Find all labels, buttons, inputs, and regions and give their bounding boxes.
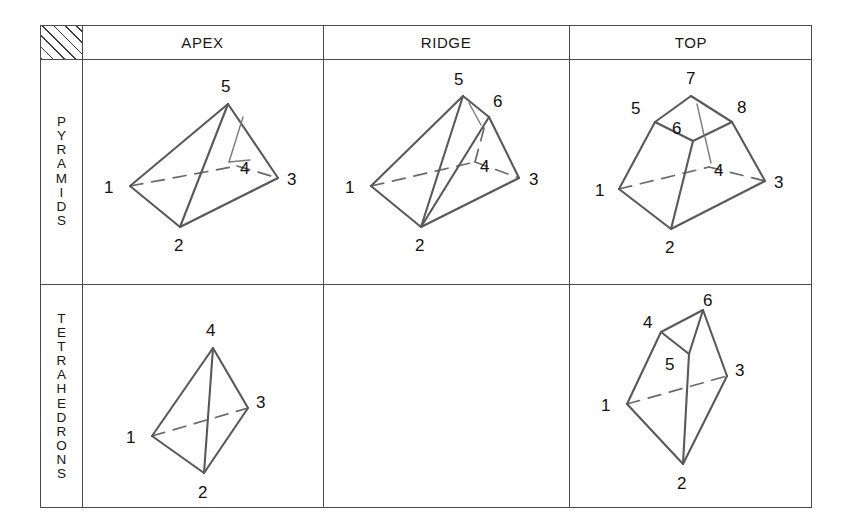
node-label-5: 5 (631, 99, 640, 118)
node-label-1: 1 (595, 181, 604, 200)
node-label-4: 4 (714, 161, 723, 180)
node-label-3: 3 (735, 361, 744, 380)
row-label-tetrahedrons: TETRAHEDRONS (41, 284, 82, 509)
node-label-4: 4 (206, 321, 215, 340)
node-label-2: 2 (198, 483, 207, 502)
node-label-3: 3 (287, 170, 296, 189)
cell-pyramid-apex: 1 2 3 4 5 (82, 59, 323, 284)
cell-pyramid-ridge: 1 2 3 4 5 6 (323, 59, 569, 284)
node-label-2: 2 (415, 236, 424, 255)
node-label-5: 5 (665, 355, 674, 374)
node-label-6: 6 (672, 119, 681, 138)
node-label-7: 7 (686, 69, 695, 88)
row-label-pyramids: PYRAMIDS (41, 59, 82, 284)
node-label-3: 3 (256, 393, 265, 412)
cell-tetra-ridge-empty (323, 284, 569, 509)
node-label-2: 2 (677, 474, 686, 493)
node-label-6: 6 (703, 291, 712, 310)
hatched-corner-cell (41, 26, 82, 59)
node-label-8: 8 (737, 98, 746, 117)
node-label-2: 2 (174, 236, 183, 255)
column-header-top: TOP (569, 26, 813, 59)
cell-tetra-top: 1 2 3 4 5 6 (569, 284, 813, 509)
node-label-2: 2 (665, 238, 674, 257)
node-label-4: 4 (480, 157, 489, 176)
node-label-1: 1 (345, 178, 354, 197)
node-label-6: 6 (493, 92, 502, 111)
node-label-5: 5 (221, 77, 230, 96)
node-label-4: 4 (240, 159, 249, 178)
cell-tetra-apex: 1 2 3 4 (82, 284, 323, 509)
cell-pyramid-top: 1 2 3 4 5 6 7 8 (569, 59, 813, 284)
figure-root: APEX RIDGE TOP PYRAMIDS TETRAHEDRONS 1 (0, 0, 850, 525)
node-label-4: 4 (643, 313, 652, 332)
node-label-1: 1 (601, 396, 610, 415)
column-header-apex: APEX (82, 26, 323, 59)
node-label-3: 3 (529, 170, 538, 189)
element-type-table: APEX RIDGE TOP PYRAMIDS TETRAHEDRONS 1 (40, 25, 812, 508)
node-label-3: 3 (774, 173, 783, 192)
node-label-1: 1 (126, 428, 135, 447)
node-label-1: 1 (104, 178, 113, 197)
node-label-5: 5 (454, 70, 463, 89)
column-header-ridge: RIDGE (323, 26, 569, 59)
